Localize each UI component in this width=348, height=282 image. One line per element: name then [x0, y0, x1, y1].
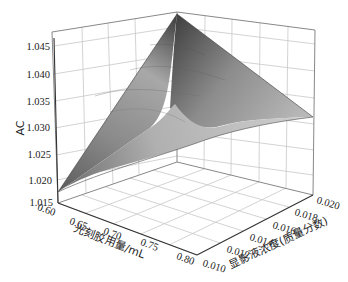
z-axis-ticks: 1.045 1.040 1.035 1.030 1.025 1.020 1.01…: [26, 41, 53, 208]
z-axis-label: AC: [14, 120, 27, 135]
y-tick: 0.020: [315, 194, 341, 211]
x-tick: 0.60: [36, 201, 57, 218]
y-tick: 0.010: [201, 257, 227, 274]
z-tick: 1.030: [26, 122, 50, 133]
z-tick: 1.020: [28, 175, 52, 186]
z-tick: 1.025: [27, 149, 51, 160]
z-tick: 1.035: [26, 96, 50, 107]
z-tick: 1.040: [26, 69, 50, 80]
z-tick: 1.045: [26, 41, 50, 52]
surface-chart: 1.045 1.040 1.035 1.030 1.025 1.020 1.01…: [0, 0, 348, 282]
